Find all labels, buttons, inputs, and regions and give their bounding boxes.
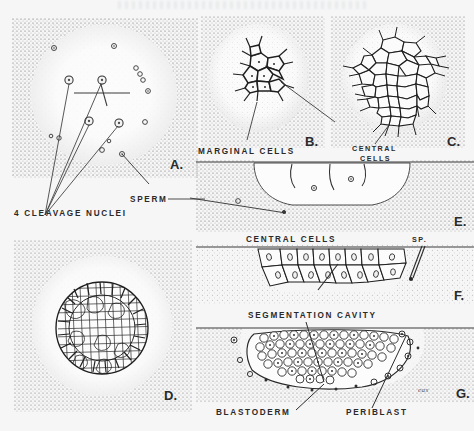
panel-marker-d: D. (164, 388, 177, 403)
label-segmentation-cavity: SEGMENTATION CAVITY (248, 311, 377, 320)
label-central-cells-e: CENTRAL CELLS (246, 235, 336, 244)
label-4-cleavage-nuclei: 4 CLEAVAGE NUCLEI (14, 209, 127, 218)
panel-g: SEGMENTATION CAVITY (196, 308, 474, 418)
label-marginal-cells: MARGINAL CELLS (198, 147, 295, 156)
label-sperm-abbrev-e: SP. (412, 235, 427, 244)
panel-b: B. (201, 16, 325, 156)
panel-marker-e: E. (454, 214, 466, 229)
panel-g-labels: BLASTODERM PERIBLAST (196, 404, 474, 424)
illustration-plate: A. 4 CLEAVAGE NUCLEI SPERM (0, 0, 474, 431)
panel-e: E. (196, 160, 474, 238)
label-sperm: SPERM (130, 195, 168, 204)
blastoderm-cells-f (258, 249, 406, 286)
panel-d: D. (14, 240, 192, 420)
panel-f: F. (196, 244, 474, 308)
label-central-cells-line1: CENTRAL (352, 144, 397, 153)
panel-marker-f: F. (454, 288, 464, 303)
panel-marker-g: G. (456, 386, 470, 401)
blastodisc-section-e (254, 163, 410, 205)
label-blastoderm: BLASTODERM (216, 408, 291, 417)
panel-c: C. (331, 16, 465, 156)
artist-signature: eas (418, 386, 429, 394)
label-periblast: PERIBLAST (346, 408, 408, 417)
